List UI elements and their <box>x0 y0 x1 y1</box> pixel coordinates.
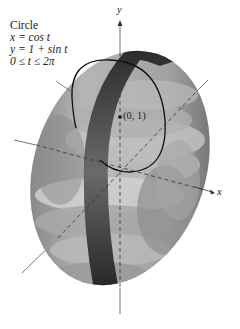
torus-figure: Circle x = cos t y = 1 + sin t 0 ≤ t ≤ 2… <box>0 0 240 329</box>
circle-caption: Circle x = cos t y = 1 + sin t 0 ≤ t ≤ 2… <box>10 19 67 67</box>
y-axis-arrow-icon <box>118 20 123 26</box>
y-axis-label: y <box>117 4 122 15</box>
caption-line-range: 0 ≤ t ≤ 2π <box>10 55 67 67</box>
caption-line-y: y = 1 + sin t <box>10 43 67 55</box>
z-axis-back <box>196 80 208 92</box>
x-axis-label: x <box>217 186 222 197</box>
point-label: (0, 1) <box>123 110 146 121</box>
x-axis-arrow-icon <box>210 190 215 195</box>
x-axis-left <box>14 140 36 145</box>
point-0-1-marker <box>118 115 122 119</box>
caption-line-x: x = cos t <box>10 31 67 43</box>
caption-title: Circle <box>10 19 67 31</box>
